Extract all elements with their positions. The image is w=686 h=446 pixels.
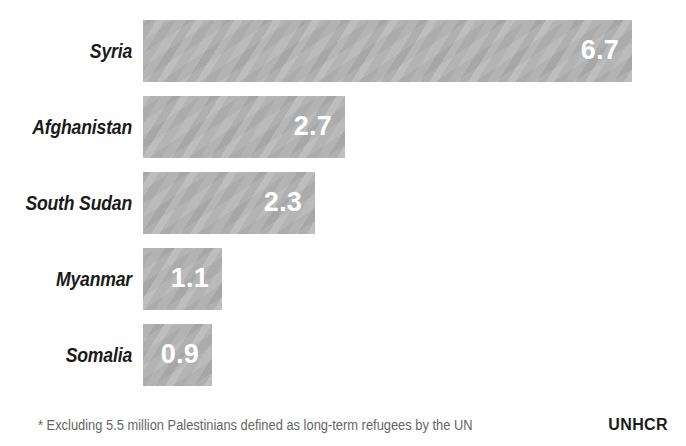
bar-track-afghanistan: 2.7 bbox=[143, 96, 345, 158]
bar-row-myanmar: Myanmar 1.1 bbox=[0, 248, 686, 310]
bar-track-south-sudan: 2.3 bbox=[143, 172, 315, 234]
bar-myanmar: 1.1 bbox=[143, 248, 222, 310]
bar-row-afghanistan: Afghanistan 2.7 bbox=[0, 96, 686, 158]
bar-value-myanmar: 1.1 bbox=[171, 248, 209, 310]
bar-track-myanmar: 1.1 bbox=[143, 248, 222, 310]
category-label-somalia: Somalia bbox=[16, 324, 132, 386]
bar-syria: 6.7 bbox=[143, 20, 632, 82]
bar-row-south-sudan: South Sudan 2.3 bbox=[0, 172, 686, 234]
category-label-myanmar: Myanmar bbox=[16, 248, 132, 310]
refugee-bar-chart: Syria 6.7 Afghanistan 2.7 South Sudan 2.… bbox=[0, 0, 686, 446]
category-label-syria: Syria bbox=[16, 20, 132, 82]
bar-south-sudan: 2.3 bbox=[143, 172, 315, 234]
bar-value-somalia: 0.9 bbox=[161, 324, 199, 386]
bar-track-somalia: 0.9 bbox=[143, 324, 212, 386]
bar-somalia: 0.9 bbox=[143, 324, 212, 386]
bar-track-syria: 6.7 bbox=[143, 20, 632, 82]
footnote-text: * Excluding 5.5 million Palestinians def… bbox=[38, 412, 473, 438]
source-logo-unhcr: UNHCR bbox=[608, 412, 668, 438]
bar-value-syria: 6.7 bbox=[581, 20, 619, 82]
bar-row-somalia: Somalia 0.9 bbox=[0, 324, 686, 386]
category-label-afghanistan: Afghanistan bbox=[16, 96, 132, 158]
bar-afghanistan: 2.7 bbox=[143, 96, 345, 158]
chart-footer: * Excluding 5.5 million Palestinians def… bbox=[0, 412, 686, 438]
bar-row-syria: Syria 6.7 bbox=[0, 20, 686, 82]
chart-plot-area: Syria 6.7 Afghanistan 2.7 South Sudan 2.… bbox=[0, 20, 686, 402]
bar-value-afghanistan: 2.7 bbox=[294, 96, 332, 158]
category-label-south-sudan: South Sudan bbox=[16, 172, 132, 234]
bar-value-south-sudan: 2.3 bbox=[264, 172, 302, 234]
